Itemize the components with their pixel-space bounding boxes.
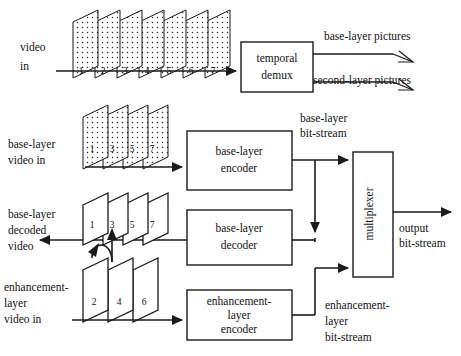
base-layer-frame-number-3: 3 [110,144,115,154]
base-layer-pictures-arrow [313,51,413,62]
base-layer-encoder-label-line1: base-layer [215,145,262,158]
enhancement-layer-frame-stack [83,258,158,322]
multiplexer-label: multiplexer [363,187,376,240]
base-layer-decoded-label-line3: video [8,240,34,252]
input-frame-number-6: 6 [189,66,194,76]
base-layer-pictures-label: base-layer pictures [324,30,411,43]
frame-5 [161,10,186,78]
frame-1 [73,10,98,78]
input-frame-number-3: 3 [123,66,128,76]
input-video-frame-stack [73,10,230,78]
decoded-frame-number-7: 7 [150,220,155,230]
enhancement-encoder-label-line3: encoder [221,323,258,335]
enhancement-frame-number-6: 6 [142,297,147,307]
el-frame-2 [83,258,108,322]
input-frame-number-4: 4 [145,66,150,76]
frame-6 [183,10,208,78]
frame-4 [139,10,164,78]
el-frame-6 [133,258,158,322]
enhancement-bitstream-label-line2: layer [325,315,348,328]
enhancement-encoder-label-line1: enhancement- [207,295,272,307]
frame-3 [117,10,142,78]
enhancement-bitstream-label-line1: enhancement- [325,299,390,311]
output-bitstream-label-line2: bit-stream [399,237,446,249]
temporal-demux-box[interactable] [241,42,313,92]
el-frame-4 [108,258,133,322]
enhancement-encoder-label-line2: layer [228,309,251,322]
decoded-frame-number-1: 1 [90,220,95,230]
base-layer-decoder-label-line2: decoder [221,239,258,251]
base-layer-frame-number-1: 1 [90,144,95,154]
base-layer-encoder-label-line2: encoder [221,162,258,174]
video-in-label-line1: video [20,41,46,53]
output-bitstream-label-line1: output [399,222,429,235]
video-in-label-line2: in [20,60,29,72]
enhancement-frame-number-4: 4 [117,297,122,307]
enhancement-video-in-label-line2: layer [4,297,27,310]
base-layer-decoder-label-line1: base-layer [215,222,262,235]
frame-7 [205,10,230,78]
diagram-canvas: 1 2 3 4 5 6 7 video in temporal demux ba… [0,0,461,356]
base-layer-decoded-frame-stack [83,193,168,245]
base-layer-decoded-label-line1: base-layer [8,208,55,221]
base-layer-video-in-label-line2: video in [8,154,46,166]
temporal-demux-label-line2: demux [261,69,293,81]
scalable-video-coding-diagram: 1 2 3 4 5 6 7 video in temporal demux ba… [0,0,461,356]
enhancement-frame-number-2: 2 [92,297,97,307]
decoded-frame-number-5: 5 [130,220,135,230]
input-frame-number-1: 1 [79,66,84,76]
base-layer-encoder-box[interactable] [187,131,292,190]
enhancement-video-in-label-line1: enhancement- [4,281,69,293]
second-layer-pictures-label: second-layer pictures [313,74,412,87]
base-layer-bitstream-label-line1: base-layer [300,112,347,125]
base-layer-decoded-label-line2: decoded [8,224,47,236]
frame-2 [95,10,120,78]
base-layer-bitstream-label-line2: bit-stream [300,127,347,139]
base-layer-video-in-label-line1: base-layer [8,138,55,151]
enhancement-bitstream-label-line3: bit-stream [325,331,372,343]
temporal-demux-label-line1: temporal [257,52,298,65]
input-frame-number-7: 7 [211,66,216,76]
base-layer-video-frame-stack [83,105,168,169]
input-frame-number-5: 5 [167,66,172,76]
base-layer-frame-number-5: 5 [130,144,135,154]
base-layer-decoder-box[interactable] [187,210,292,265]
base-layer-frame-number-7: 7 [150,144,155,154]
input-frame-number-2: 2 [101,66,106,76]
enhancement-video-in-label-line3: video in [4,313,42,325]
base-layer-bitstream-connector [292,160,348,242]
